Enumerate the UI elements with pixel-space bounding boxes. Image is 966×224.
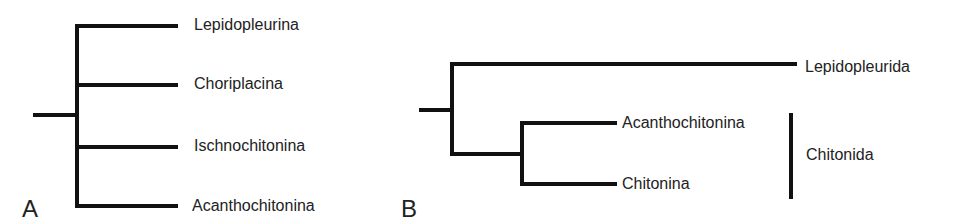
tree-a-branches: [0, 0, 966, 224]
taxon-label: Lepidopleurida: [805, 58, 910, 76]
phylogeny-figure: Lepidopleurina Choriplacina Ischnochiton…: [0, 0, 966, 224]
panel-letter-a: A: [22, 197, 38, 221]
taxon-label: Choriplacina: [194, 75, 283, 93]
taxon-label: Ischnochitonina: [194, 137, 305, 155]
panel-letter-b: B: [401, 197, 417, 221]
taxon-label: Lepidopleurina: [194, 16, 299, 34]
taxon-label: Chitonina: [622, 175, 690, 193]
taxon-label: Acanthochitonina: [192, 197, 315, 215]
clade-label-chitonida: Chitonida: [806, 146, 874, 164]
taxon-label: Acanthochitonina: [622, 114, 745, 132]
